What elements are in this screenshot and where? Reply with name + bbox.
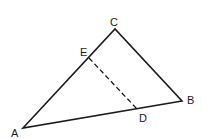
triangle-diagram: A B C D E [0, 0, 207, 139]
segment-ed-dashed [89, 58, 137, 109]
label-b: B [187, 94, 194, 106]
label-a: A [11, 127, 19, 139]
triangle-abc [23, 29, 182, 128]
label-d: D [139, 112, 147, 124]
label-c: C [110, 16, 118, 28]
label-e: E [80, 46, 87, 58]
